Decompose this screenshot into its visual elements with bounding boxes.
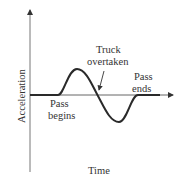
pass-begins-label-line1: Pass xyxy=(50,98,69,109)
truck-overtaken-pointer xyxy=(99,71,104,90)
truck-overtaken-label-line1: Truck xyxy=(96,44,121,55)
truck-overtaken-label-line2: overtaken xyxy=(87,56,129,67)
pass-ends-label-line2: ends xyxy=(132,83,151,94)
pass-ends-label-line1: Pass xyxy=(134,71,153,82)
pass-begins-label-line2: begins xyxy=(48,110,75,121)
y-axis-label: Acceleration xyxy=(16,69,27,123)
acceleration-time-diagram: Acceleration Time Pass begins Truck over… xyxy=(0,0,181,186)
x-axis-label: Time xyxy=(88,165,110,176)
